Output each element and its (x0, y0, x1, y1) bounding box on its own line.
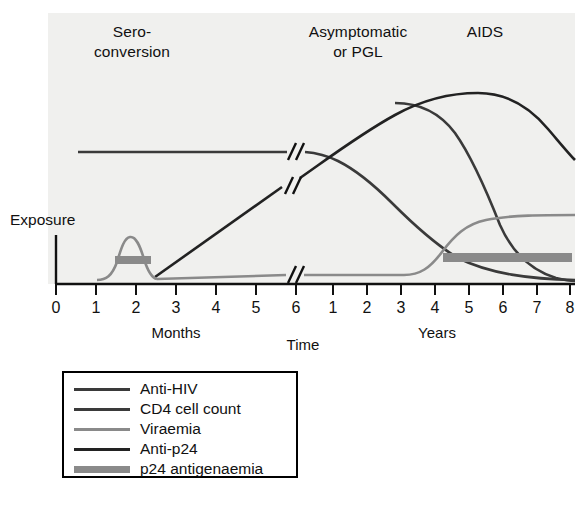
legend-label-p24-antigenaemia: p24 antigenaemia (140, 460, 263, 478)
axis-break-viraemia (288, 266, 304, 283)
axis-break-anti-p24 (285, 177, 301, 194)
legend-swatch-cd4-cell-count-icon (74, 408, 130, 411)
x-tick-month-0: 0 (45, 299, 67, 317)
x-axis-title: Time (287, 336, 320, 353)
x-tick-month-1: 1 (85, 299, 107, 317)
legend-label-cd4-cell-count: CD4 cell count (140, 400, 241, 418)
legend-swatch-anti-p24-icon (74, 448, 130, 451)
legend-swatch-viraemia-icon (74, 428, 130, 431)
x-tick-year-2: 2 (356, 299, 378, 317)
x-axis-segment-months: Months (151, 324, 200, 341)
legend-label-viraemia: Viraemia (140, 420, 201, 438)
x-tick-month-4: 4 (205, 299, 227, 317)
axis-break-anti-hiv (288, 143, 304, 160)
legend-swatch-p24-antigenaemia-icon (74, 466, 130, 473)
x-tick-year-6: 6 (492, 299, 514, 317)
x-axis-segment-years: Years (418, 324, 456, 341)
legend-item-cd4-cell-count: CD4 cell count (74, 399, 241, 419)
legend-item-anti-hiv: Anti-HIV (74, 379, 198, 399)
series-anti-p24-left (155, 187, 282, 277)
series-anti-p24-right (300, 93, 575, 178)
x-tick-month-2: 2 (125, 299, 147, 317)
legend-item-viraemia: Viraemia (74, 419, 201, 439)
x-tick-year-8: 8 (559, 299, 580, 317)
p24-antigenaemia-band-late (443, 253, 572, 262)
legend-item-p24-antigenaemia: p24 antigenaemia (74, 459, 263, 479)
legend-label-anti-p24: Anti-p24 (140, 440, 198, 458)
x-ticks-years (333, 284, 570, 295)
x-tick-year-5: 5 (458, 299, 480, 317)
x-tick-month-3: 3 (165, 299, 187, 317)
legend-label-anti-hiv: Anti-HIV (140, 380, 198, 398)
x-tick-month-6: 6 (285, 299, 307, 317)
x-tick-month-5: 5 (245, 299, 267, 317)
legend: Anti-HIV CD4 cell count Viraemia Anti-p2… (62, 371, 298, 478)
x-tick-year-3: 3 (390, 299, 412, 317)
x-tick-year-7: 7 (526, 299, 548, 317)
series-viraemia-baseline-left (157, 275, 286, 279)
x-tick-year-1: 1 (322, 299, 344, 317)
x-ticks-months (56, 284, 296, 295)
legend-swatch-anti-hiv-icon (74, 388, 130, 391)
x-tick-year-4: 4 (424, 299, 446, 317)
legend-item-anti-p24: Anti-p24 (74, 439, 198, 459)
p24-antigenaemia-band-early (115, 256, 151, 264)
